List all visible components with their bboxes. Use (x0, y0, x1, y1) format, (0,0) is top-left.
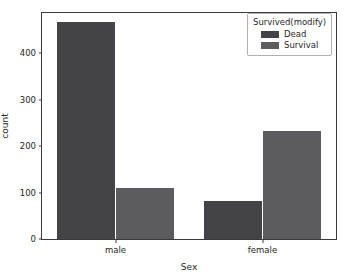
legend-entries: DeadSurvival (253, 29, 326, 50)
y-tick-mark (39, 146, 43, 147)
bar-female-dead (204, 201, 263, 239)
bar-male-dead (57, 22, 116, 239)
y-tick-mark (39, 192, 43, 193)
legend-item-dead[interactable]: Dead (253, 29, 326, 39)
bar-male-survival (116, 188, 175, 239)
legend-swatch-icon (261, 31, 279, 38)
x-tick-mark (115, 239, 116, 243)
legend-item-survival[interactable]: Survival (253, 40, 326, 50)
legend-swatch-icon (261, 42, 279, 49)
y-axis-label: count (0, 113, 10, 138)
x-tick-label: male (105, 245, 126, 255)
bar-female-survival (263, 131, 322, 239)
legend: Survived(modify) DeadSurvival (247, 13, 332, 56)
legend-item-label: Dead (284, 29, 306, 39)
legend-title: Survived(modify) (253, 17, 326, 27)
x-tick-mark (262, 239, 263, 243)
legend-item-label: Survival (284, 40, 318, 50)
y-tick-mark (39, 239, 43, 240)
bar-chart-figure: count 0100200300400malefemale Sex Surviv… (0, 0, 346, 274)
x-tick-label: female (248, 245, 277, 255)
x-axis-label: Sex (181, 262, 197, 272)
y-tick-mark (39, 99, 43, 100)
y-tick-mark (39, 53, 43, 54)
